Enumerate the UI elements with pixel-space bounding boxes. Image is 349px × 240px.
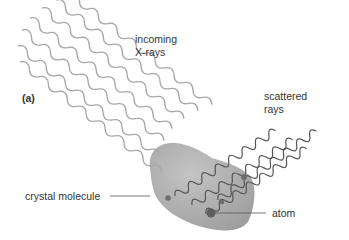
- crystal-molecule-label: crystal molecule: [25, 190, 100, 202]
- incoming-xrays-label-line1: incoming: [135, 33, 177, 45]
- incoming-xrays-label-line2: X-rays: [135, 46, 165, 58]
- atom-label: atom: [272, 207, 295, 219]
- scattered-rays-label-line1: scattered: [264, 90, 307, 102]
- atom-dot: [165, 195, 171, 201]
- panel-label: (a): [22, 92, 35, 104]
- atom-dot: [241, 174, 247, 180]
- atom-dot: [220, 200, 225, 205]
- scattered-rays-label-line2: rays: [264, 103, 284, 115]
- xray-diffraction-diagram: incoming X-rays (a) scattered rays cryst…: [0, 0, 349, 240]
